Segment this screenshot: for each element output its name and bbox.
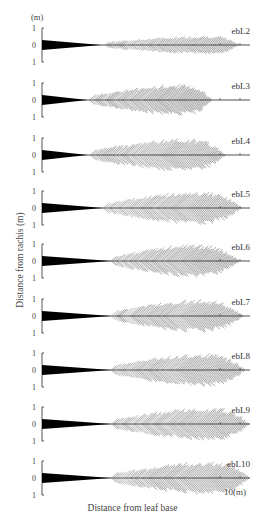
svg-text:1: 1 [32, 24, 36, 33]
svg-text:0: 0 [32, 257, 36, 266]
svg-text:0: 0 [32, 474, 36, 483]
svg-text:0: 0 [32, 41, 36, 50]
svg-text:1: 1 [32, 58, 36, 67]
panel-label: ebL7 [232, 297, 251, 307]
leaf-profiles-plot: 101ebL2101ebL3101ebL4101ebL5101ebL6101eb… [0, 0, 265, 525]
panel-label: ebL6 [232, 242, 251, 252]
svg-text:1: 1 [32, 295, 36, 304]
figure: (m) Distance from rachis (m) 101ebL2101e… [0, 0, 265, 525]
svg-text:1: 1 [32, 240, 36, 249]
svg-text:1: 1 [32, 437, 36, 446]
panel-ebL9: 101ebL9 [32, 403, 250, 446]
svg-text:0: 0 [32, 151, 36, 160]
svg-text:1: 1 [32, 221, 36, 230]
svg-text:1: 1 [32, 383, 36, 392]
panel-ebL3: 101ebL3 [32, 79, 250, 122]
svg-text:0: 0 [32, 204, 36, 213]
panel-ebL6: 101ebL6 [32, 240, 250, 283]
svg-text:0: 0 [32, 366, 36, 375]
panel-ebL8: 101ebL8 [32, 349, 250, 392]
svg-text:1: 1 [32, 113, 36, 122]
panel-ebL7: 101ebL7 [32, 295, 250, 338]
svg-text:1: 1 [32, 274, 36, 283]
svg-text:0: 0 [32, 96, 36, 105]
panel-label: ebL8 [232, 351, 251, 361]
panel-ebL5: 101ebL5 [32, 187, 250, 230]
panel-ebL10: 101ebL10 [32, 457, 250, 500]
svg-text:1: 1 [32, 349, 36, 358]
y-axis-label: Distance from rachis (m) [15, 200, 25, 320]
svg-text:1: 1 [32, 457, 36, 466]
panel-ebL2: 101ebL2 [32, 24, 250, 67]
x-axis-label: Distance from leaf base [0, 503, 265, 513]
svg-text:1: 1 [32, 329, 36, 338]
panel-label: ebL3 [232, 81, 251, 91]
y-unit-label: (m) [31, 12, 43, 22]
svg-text:1: 1 [32, 79, 36, 88]
svg-text:0: 0 [32, 420, 36, 429]
panel-label: ebL2 [232, 26, 251, 36]
panel-label: ebL4 [232, 136, 251, 146]
svg-text:0: 0 [32, 312, 36, 321]
panel-label: ebL9 [232, 405, 251, 415]
panel-label: ebL5 [232, 189, 251, 199]
svg-text:1: 1 [32, 187, 36, 196]
x-unit-label: 10(m) [224, 487, 246, 497]
panel-label: ebL10 [227, 459, 250, 469]
panel-ebL4: 101ebL4 [32, 134, 250, 177]
svg-text:1: 1 [32, 491, 36, 500]
svg-text:1: 1 [32, 134, 36, 143]
svg-text:1: 1 [32, 403, 36, 412]
svg-text:1: 1 [32, 168, 36, 177]
